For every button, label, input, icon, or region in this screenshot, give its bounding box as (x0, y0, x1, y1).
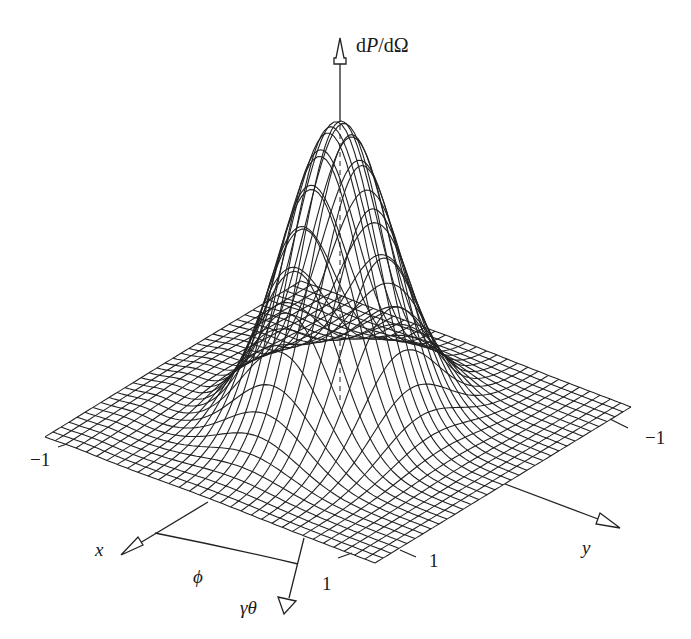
x-far-tick (58, 444, 67, 447)
phi-angle-arc (155, 533, 298, 564)
mesh-line (251, 258, 507, 515)
y-far-tick (610, 419, 628, 428)
gamma-theta-axis-arrow-icon (278, 597, 296, 614)
tick-label-y-far: −1 (645, 428, 665, 447)
mesh-line (262, 307, 518, 520)
mesh-line (293, 375, 549, 531)
mesh-line (61, 427, 391, 553)
mesh-line (169, 227, 425, 484)
mesh-line (354, 399, 610, 555)
mesh-line (323, 387, 579, 543)
vertical-axis-arrow-icon (334, 38, 346, 64)
phi-label: ϕ (193, 567, 203, 586)
y-axis-arrow-icon (596, 513, 620, 528)
wire-mesh-surface (45, 121, 631, 563)
mesh-line (269, 300, 599, 426)
x-near-tick (338, 553, 352, 558)
gamma-theta-label: γθ (240, 598, 257, 617)
vertical-axis-label: dP/dΩ (356, 35, 409, 55)
tick-label-y-near: 1 (429, 551, 439, 570)
mesh-line (173, 122, 503, 485)
y-axis-line (505, 484, 598, 519)
gamma-theta-axis-line (289, 538, 304, 598)
x-axis-label: x (95, 540, 103, 559)
mesh-line (189, 137, 519, 475)
tick-label-x-near: 1 (322, 574, 332, 593)
tick-label-x-far: −1 (30, 450, 50, 469)
mesh-line (165, 133, 495, 490)
mesh-line (109, 385, 439, 524)
mesh-line (313, 383, 569, 539)
x-axis-arrow-icon (121, 537, 143, 555)
y-axis-label: y (582, 538, 590, 557)
mesh-line (334, 391, 590, 547)
y-near-tick (400, 550, 416, 557)
